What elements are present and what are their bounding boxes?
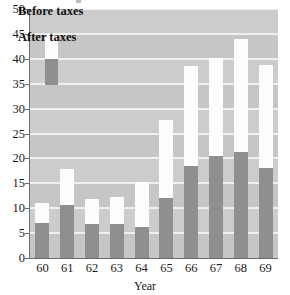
bar-group — [209, 58, 223, 258]
bar-segment-after-taxes — [110, 224, 124, 258]
y-axis-tick-mark — [25, 158, 29, 159]
y-axis-tick-label: 30 — [1, 103, 25, 116]
bar-group — [184, 66, 198, 258]
x-axis-line — [29, 258, 278, 259]
y-axis-tick-mark — [25, 59, 29, 60]
plot-area — [30, 9, 278, 258]
bar-segment-after-taxes — [159, 198, 173, 258]
bar-group — [159, 120, 173, 258]
bar-group — [110, 197, 124, 258]
bar-group — [60, 169, 74, 258]
y-axis-tick-mark — [25, 258, 29, 259]
y-axis-tick-label: 15 — [1, 177, 25, 190]
legend-label-before-taxes: Before taxes — [18, 5, 83, 18]
y-axis-tick-mark — [25, 183, 29, 184]
bar-group — [135, 182, 149, 258]
bar-group — [35, 203, 49, 258]
cropped-axis-mark — [76, 0, 81, 3]
x-axis-tick-label: 69 — [251, 262, 281, 275]
y-axis-tick-mark — [25, 84, 29, 85]
bar-segment-after-taxes — [234, 152, 248, 258]
y-axis-tick-label: 25 — [1, 128, 25, 141]
bar-segment-after-taxes — [85, 224, 99, 258]
bar-segment-after-taxes — [135, 227, 149, 258]
y-axis-tick-label: 35 — [1, 78, 25, 91]
bar-group — [85, 199, 99, 258]
y-axis-tick-label: 10 — [1, 202, 25, 215]
bar-segment-after-taxes — [35, 223, 49, 258]
bar-segment-after-taxes — [60, 205, 74, 258]
stacked-bar-chart: 05101520253035404550 6061626364656667686… — [0, 0, 290, 295]
y-axis-tick-mark — [25, 134, 29, 135]
bar-group — [259, 65, 273, 258]
x-axis-title: Year — [0, 280, 290, 292]
bar-segment-after-taxes — [209, 156, 223, 258]
y-axis-tick-label: 5 — [1, 227, 25, 240]
y-axis-line — [29, 9, 30, 259]
y-axis-tick-label: 40 — [1, 53, 25, 66]
bar-group — [234, 39, 248, 258]
y-axis-tick-mark — [25, 109, 29, 110]
y-axis-tick-mark — [25, 233, 29, 234]
y-axis-tick-label: 20 — [1, 152, 25, 165]
legend-swatch-after-taxes — [45, 59, 58, 85]
legend-label-after-taxes: After taxes — [18, 31, 76, 44]
bar-segment-after-taxes — [184, 166, 198, 258]
bar-segment-after-taxes — [259, 168, 273, 258]
y-axis-tick-mark — [25, 208, 29, 209]
y-axis-tick-label: 0 — [1, 252, 25, 265]
